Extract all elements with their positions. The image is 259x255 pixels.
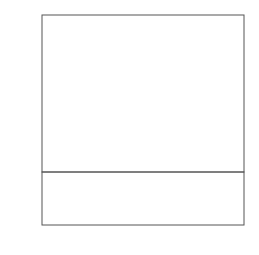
bottom-panel-frame [42, 172, 244, 225]
light-curve-figure [0, 0, 259, 255]
top-panel-frame [42, 15, 244, 172]
